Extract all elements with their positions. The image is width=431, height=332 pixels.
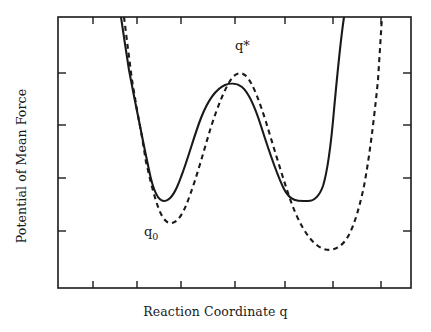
plot-frame: [58, 17, 411, 288]
annotation-q-star-mark: *: [243, 38, 250, 53]
y-axis-ticks-right: [403, 73, 411, 231]
dashed-pmf-curve: [124, 17, 382, 250]
solid-pmf-curve: [121, 17, 344, 201]
pmf-figure: q* q0 Reaction Coordinate q Potential of…: [0, 0, 431, 332]
x-axis-ticks-bottom: [93, 281, 381, 288]
plot-canvas: [0, 0, 431, 332]
annotation-q-star: q*: [235, 38, 250, 53]
annotation-q-zero: q0: [144, 224, 158, 242]
y-axis-ticks-left: [58, 73, 66, 231]
y-axis-label: Potential of Mean Force: [10, 0, 34, 332]
x-axis-ticks-top: [93, 17, 381, 24]
annotation-q-zero-subscript: 0: [152, 231, 158, 242]
x-axis-label: Reaction Coordinate q: [0, 304, 431, 319]
